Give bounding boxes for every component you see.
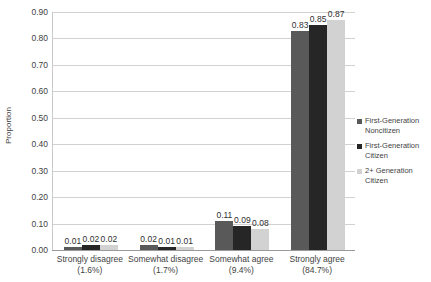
bar-group: 0.110.090.08 bbox=[215, 12, 269, 250]
legend-label: 2+ GenerationCitizen bbox=[365, 166, 413, 185]
x-axis-label: Strongly disagree(1.6%) bbox=[52, 254, 128, 276]
bar-value-label: 0.01 bbox=[65, 236, 82, 246]
y-axis-tick-label: 0.80 bbox=[2, 33, 48, 43]
y-axis-tick-label: 0.40 bbox=[2, 139, 48, 149]
y-axis-tick-label: 0.10 bbox=[2, 219, 48, 229]
legend-label-line: 2+ Generation bbox=[365, 166, 413, 176]
bar-group: 0.020.010.01 bbox=[140, 12, 194, 250]
bar-value-label: 0.02 bbox=[140, 234, 157, 244]
legend-label: First-GenerationNoncitizen bbox=[365, 116, 419, 135]
bar-value-label: 0.85 bbox=[310, 14, 327, 24]
y-axis-tick-label: 0.60 bbox=[2, 86, 48, 96]
bar[interactable]: 0.08 bbox=[251, 229, 269, 250]
bar-value-label: 0.08 bbox=[252, 218, 269, 228]
x-axis-label-name: Strongly disagree bbox=[57, 254, 123, 264]
bar[interactable]: 0.83 bbox=[291, 31, 309, 250]
legend: First-GenerationNoncitizenFirst-Generati… bbox=[357, 116, 431, 191]
x-axis-label-name: Somewhat agree bbox=[209, 254, 273, 264]
bar[interactable]: 0.11 bbox=[215, 221, 233, 250]
bar[interactable]: 0.85 bbox=[309, 25, 327, 250]
legend-item[interactable]: First-GenerationNoncitizen bbox=[357, 116, 431, 135]
x-axis-label-percent: (1.7%) bbox=[128, 265, 204, 276]
bar-value-label: 0.01 bbox=[158, 236, 175, 246]
x-axis-label-percent: (84.7%) bbox=[279, 265, 355, 276]
bar-value-label: 0.02 bbox=[83, 234, 100, 244]
legend-label-line: Citizen bbox=[365, 151, 419, 161]
legend-label-line: First-Generation bbox=[365, 141, 419, 151]
bar-value-label: 0.11 bbox=[216, 210, 232, 220]
legend-label-line: Citizen bbox=[365, 176, 413, 186]
legend-item[interactable]: 2+ GenerationCitizen bbox=[357, 166, 431, 185]
bar-value-label: 0.01 bbox=[176, 236, 193, 246]
y-axis-tick-label: 0.70 bbox=[2, 60, 48, 70]
bar-chart: Proportion 0.900.800.700.600.500.400.300… bbox=[0, 0, 431, 282]
bar-group: 0.010.020.02 bbox=[64, 12, 118, 250]
bar-value-label: 0.83 bbox=[292, 20, 309, 30]
y-axis-tick-labels: 0.900.800.700.600.500.400.300.200.100.00 bbox=[0, 0, 48, 282]
x-axis-line bbox=[52, 250, 355, 251]
y-axis-tick-label: 0.90 bbox=[2, 7, 48, 17]
bar[interactable]: 0.09 bbox=[233, 226, 251, 250]
bar-value-label: 0.09 bbox=[234, 215, 251, 225]
x-axis-label: Strongly agree(84.7%) bbox=[279, 254, 355, 276]
bar[interactable]: 0.87 bbox=[327, 20, 345, 250]
y-axis-tick-label: 0.50 bbox=[2, 113, 48, 123]
legend-swatch-icon bbox=[357, 119, 362, 124]
plot-area: 0.010.020.020.020.010.010.110.090.080.83… bbox=[52, 12, 355, 250]
x-axis-label-name: Somewhat disagree bbox=[128, 254, 203, 264]
y-axis-tick-label: 0.20 bbox=[2, 192, 48, 202]
bar-group: 0.830.850.87 bbox=[291, 12, 345, 250]
legend-swatch-icon bbox=[357, 169, 362, 174]
legend-label-line: First-Generation bbox=[365, 116, 419, 126]
y-axis-tick-label: 0.00 bbox=[2, 245, 48, 255]
bar-value-label: 0.87 bbox=[328, 9, 345, 19]
x-axis-label-percent: (9.4%) bbox=[204, 265, 280, 276]
x-axis-label-name: Strongly agree bbox=[289, 254, 344, 264]
y-axis-tick-label: 0.30 bbox=[2, 166, 48, 176]
x-axis-label: Somewhat disagree(1.7%) bbox=[128, 254, 204, 276]
legend-label: First-GenerationCitizen bbox=[365, 141, 419, 160]
x-axis-label-percent: (1.6%) bbox=[52, 265, 128, 276]
legend-label-line: Noncitizen bbox=[365, 126, 419, 136]
bar-value-label: 0.02 bbox=[101, 234, 118, 244]
x-axis-label: Somewhat agree(9.4%) bbox=[204, 254, 280, 276]
legend-swatch-icon bbox=[357, 144, 362, 149]
legend-item[interactable]: First-GenerationCitizen bbox=[357, 141, 431, 160]
